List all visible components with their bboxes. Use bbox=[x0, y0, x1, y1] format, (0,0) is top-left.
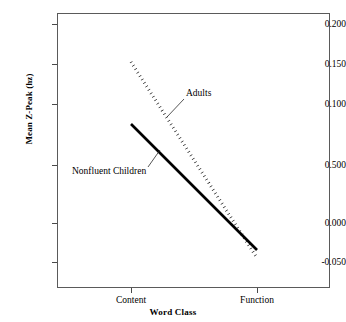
y-axis-title: Mean Z-Peak (hz) bbox=[24, 24, 34, 194]
x-tick-label-content: Content bbox=[86, 295, 176, 306]
y-tick-label-1: 0.150 bbox=[302, 59, 346, 69]
annotation-label-adults: Adults bbox=[186, 88, 211, 99]
y-tick-mark-3 bbox=[52, 165, 57, 166]
y-tick-mark-1 bbox=[52, 64, 57, 65]
y-tick-mark-5 bbox=[52, 262, 57, 263]
y-tick-label-5: -0.050 bbox=[302, 257, 346, 267]
y-tick-mark-2 bbox=[52, 104, 57, 105]
y-tick-mark-4 bbox=[52, 223, 57, 224]
x-tick-mark-0 bbox=[131, 288, 132, 293]
y-tick-label-3: 0.500 bbox=[302, 160, 346, 170]
x-tick-mark-1 bbox=[257, 288, 258, 293]
x-tick-label-function: Function bbox=[212, 295, 302, 306]
plot-area bbox=[57, 13, 330, 288]
chart-figure: Mean Z-Peak (hz) 0.200 0.150 0.100 0.500… bbox=[0, 0, 346, 322]
annotation-label-nonfluent-children: Nonfluent Children bbox=[72, 166, 146, 177]
y-tick-label-2: 0.100 bbox=[302, 99, 346, 109]
x-axis-title: Word Class bbox=[0, 307, 346, 317]
y-tick-mark-0 bbox=[52, 24, 57, 25]
y-tick-label-4: 0.000 bbox=[302, 218, 346, 228]
y-tick-label-0: 0.200 bbox=[302, 19, 346, 29]
